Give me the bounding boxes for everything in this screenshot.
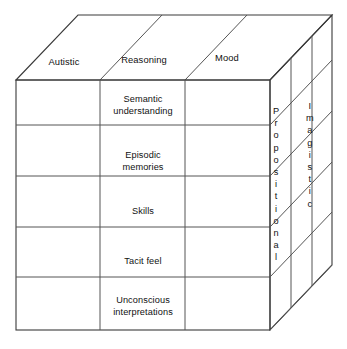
column-header-autistic: Autistic <box>32 56 96 68</box>
row-label-unconscious-interpretations: Unconscious interpretations <box>101 295 185 318</box>
panel-letter: o <box>274 129 279 141</box>
panel-letter: i <box>309 185 311 197</box>
row-label-skills: Skills <box>101 206 185 218</box>
panel-letter: t <box>309 173 312 185</box>
panel-letter: s <box>308 161 313 173</box>
panel-letter: o <box>274 215 279 227</box>
column-header-reasoning: Reasoning <box>108 54 180 66</box>
panel-letter: i <box>275 203 277 215</box>
panel-letter: m <box>306 112 314 124</box>
panel-letter: t <box>275 190 278 202</box>
panel-letter: a <box>274 239 279 251</box>
panel-letter: I <box>309 100 312 112</box>
panel-letter: i <box>275 178 277 190</box>
panel-letter: i <box>309 149 311 161</box>
panel-letter: P <box>273 105 279 117</box>
cube-diagram: Autistic Reasoning Mood Semantic underst… <box>0 0 347 349</box>
panel-label-imagistic: Imagistic <box>306 100 314 210</box>
row-label-tacit-feel: Tacit feel <box>101 256 185 268</box>
panel-letter: o <box>274 154 279 166</box>
column-header-mood: Mood <box>195 52 259 64</box>
panel-letter: a <box>307 124 312 136</box>
row-label-semantic-understanding: Semantic understanding <box>101 94 185 117</box>
panel-letter: p <box>274 142 279 154</box>
panel-label-propositional: Propositional <box>273 105 279 263</box>
row-label-episodic-memories: Episodic memories <box>101 150 185 173</box>
panel-letter: c <box>308 198 313 210</box>
panel-letter: n <box>274 227 279 239</box>
panel-letter: g <box>307 137 312 149</box>
panel-letter: l <box>275 251 277 263</box>
front-face <box>16 80 270 330</box>
panel-letter: r <box>275 117 278 129</box>
panel-letter: s <box>274 166 279 178</box>
